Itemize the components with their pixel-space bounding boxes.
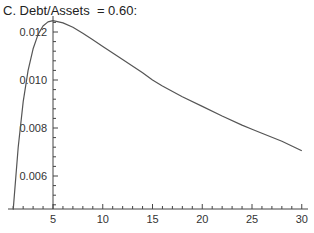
y-tick-label: 0.010 [19,74,47,86]
x-tick-label: 10 [97,213,109,225]
y-tick-label: 0.006 [19,170,47,182]
y-tick-label: 0.008 [19,122,47,134]
y-tick-label: 0.012 [19,26,47,38]
line-chart: 510152025300.0060.0080.0100.012 [0,0,314,233]
x-tick-label: 15 [146,213,158,225]
data-line [13,21,302,210]
x-tick-label: 20 [196,213,208,225]
x-tick-label: 5 [50,213,56,225]
x-tick-label: 30 [296,213,308,225]
x-tick-label: 25 [246,213,258,225]
